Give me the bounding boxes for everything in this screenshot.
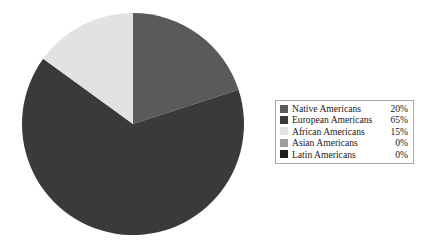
legend-item-african-americans: African Americans 15%	[280, 126, 408, 137]
legend-swatch-european-americans	[280, 116, 288, 124]
legend-value-native-americans: 20%	[386, 103, 408, 114]
legend-label-latin-americans: Latin Americans	[292, 149, 391, 160]
legend-label-asian-americans: Asian Americans	[292, 137, 391, 148]
legend-value-european-americans: 65%	[386, 114, 408, 125]
legend-value-latin-americans: 0%	[391, 149, 408, 160]
legend-label-native-americans: Native Americans	[292, 103, 386, 114]
legend-item-native-americans: Native Americans 20%	[280, 103, 408, 114]
legend-label-european-americans: European Americans	[292, 114, 386, 125]
pie-slice-group	[22, 13, 244, 235]
legend-item-latin-americans: Latin Americans 0%	[280, 149, 408, 160]
legend-item-asian-americans: Asian Americans 0%	[280, 137, 408, 148]
legend-label-african-americans: African Americans	[292, 126, 386, 137]
legend-swatch-latin-americans	[280, 150, 288, 158]
pie-chart	[21, 12, 245, 236]
pie-chart-svg	[21, 12, 245, 236]
legend-value-african-americans: 15%	[386, 126, 408, 137]
legend-item-european-americans: European Americans 65%	[280, 114, 408, 125]
pie-chart-figure: Native Americans 20% European Americans …	[0, 0, 429, 252]
legend-value-asian-americans: 0%	[391, 137, 408, 148]
legend-swatch-native-americans	[280, 105, 288, 113]
legend-swatch-african-americans	[280, 127, 288, 135]
legend-swatch-asian-americans	[280, 139, 288, 147]
chart-legend: Native Americans 20% European Americans …	[275, 100, 414, 164]
